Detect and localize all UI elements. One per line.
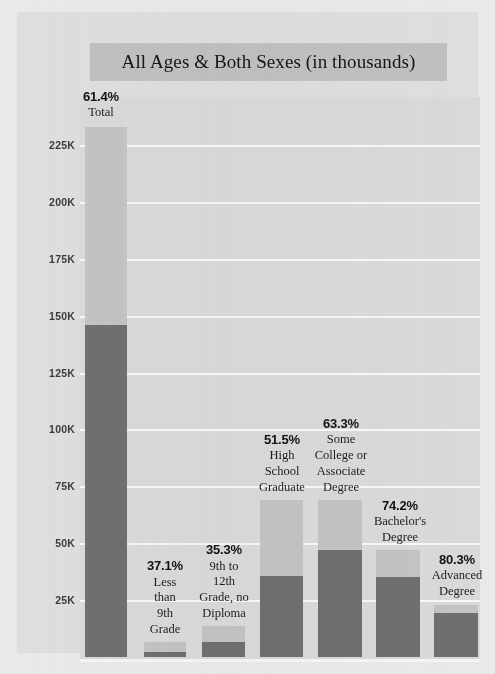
y-axis-tick-label: 100K [49,423,75,435]
bar-annotation-bachelors-degree: 74.2%Bachelor'sDegree [364,498,436,545]
gridline [80,316,480,318]
page-title: All Ages & Both Sexes (in thousands) [122,51,416,73]
gridline [80,145,480,147]
bar-high-school-graduate[interactable] [260,500,303,657]
chart-page: All Ages & Both Sexes (in thousands) 25K… [0,0,495,674]
bar-annotation-some-college-or-associate-degree: 63.3%SomeCollege orAssociateDegree [303,416,379,494]
bar-annotation-9th-to-12th-grade-no-diploma: 35.3%9th to12thGrade, noDiploma [185,542,263,620]
bar-category-label: Advanced [420,568,494,583]
y-axis-tick-label: 25K [55,594,75,606]
bar-segment-lower [318,550,362,657]
y-axis-tick-label: 175K [49,253,75,265]
bar-category-label: Degree [420,584,494,599]
bar-category-label: 12th [185,574,263,589]
bar-annotation-total: 61.4%Total [71,89,131,120]
bar-category-label: Associate [303,464,379,479]
bar-category-label: Grade [135,622,195,637]
y-axis: 25K50K75K100K125K150K175K200K225K [27,97,75,660]
y-axis-tick-label: 75K [55,480,75,492]
bar-percent-label: 80.3% [420,552,494,567]
bar-less-than-9th-grade[interactable] [144,642,186,657]
y-axis-tick-label: 150K [49,310,75,322]
bar-segment-lower [202,642,245,657]
bar-category-label: Total [71,105,131,120]
bar-segment-lower [260,576,303,657]
bar-percent-label: 63.3% [303,416,379,431]
bar-category-label: Diploma [185,606,263,621]
bar-segment-lower [144,652,186,657]
bar-annotation-advanced-degree: 80.3%AdvancedDegree [420,552,494,599]
bar-9th-to-12th-grade-no-diploma[interactable] [202,626,245,657]
gridline [80,259,480,261]
bar-segment-lower [434,613,478,657]
bar-category-label: Degree [303,480,379,495]
bar-total[interactable] [85,127,127,657]
plot-area: 61.4%Total37.1%Lessthan9thGrade35.3%9th … [80,97,480,660]
chart-title-band: All Ages & Both Sexes (in thousands) [90,43,447,81]
bar-category-label: 9th to [185,559,263,574]
bar-segment-lower [85,325,127,657]
bar-category-label: College or [303,448,379,463]
y-axis-tick-label: 125K [49,367,75,379]
bar-percent-label: 61.4% [71,89,131,104]
bar-some-college-or-associate-degree[interactable] [318,500,362,657]
bar-advanced-degree[interactable] [434,605,478,657]
axis-baseline [80,659,480,662]
chart-card: All Ages & Both Sexes (in thousands) 25K… [17,12,478,653]
bar-bachelors-degree[interactable] [376,550,420,657]
bar-category-label: Bachelor's [364,514,436,529]
bar-category-label: Grade, no [185,590,263,605]
y-axis-tick-label: 50K [55,537,75,549]
y-axis-tick-label: 200K [49,196,75,208]
bar-segment-lower [376,577,420,657]
gridline [80,373,480,375]
bar-category-label: Degree [364,530,436,545]
gridline [80,202,480,204]
bar-percent-label: 35.3% [185,542,263,557]
y-axis-tick-label: 225K [49,139,75,151]
bar-percent-label: 74.2% [364,498,436,513]
bar-category-label: Some [303,432,379,447]
